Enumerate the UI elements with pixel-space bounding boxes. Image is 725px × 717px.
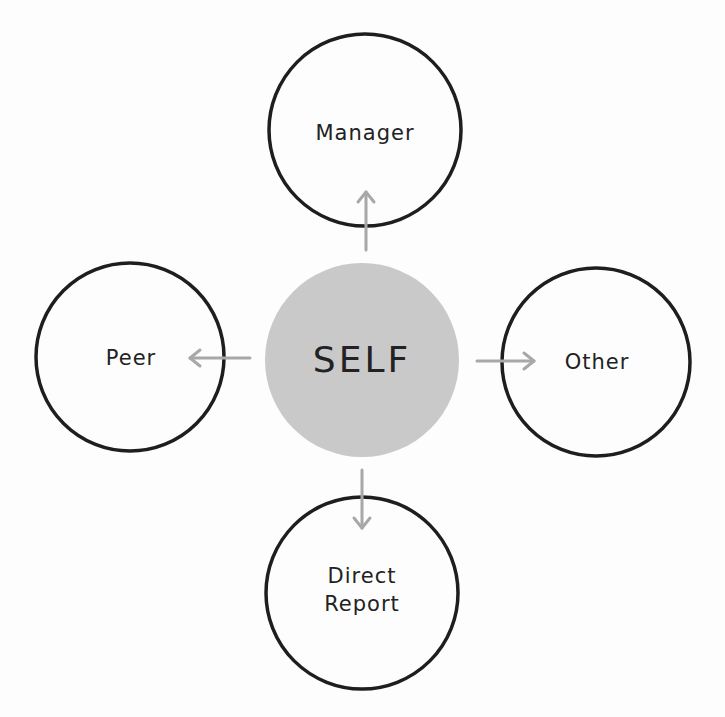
peer-label: Peer [106,344,156,372]
manager-label: Manager [315,119,414,147]
arrow-left-icon [190,350,250,366]
self-label: SELF [313,336,411,385]
other-label: Other [565,348,630,376]
diagram-canvas: SELF Manager Peer Other Direct Report [0,0,725,717]
arrow-down-icon [354,470,370,528]
arrow-up-icon [358,192,374,250]
arrow-right-icon [477,353,534,369]
direct-report-label: Direct Report [324,562,400,619]
